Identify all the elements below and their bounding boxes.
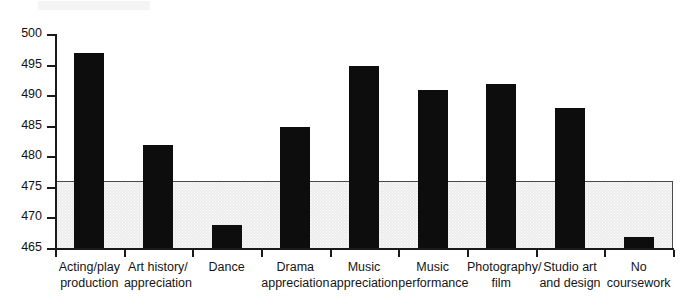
x-category-label: Studio artand design [536,259,605,291]
x-tick [673,250,675,257]
x-category-label: Musicappreciation [330,259,399,291]
x-category-label: Dramaappreciation [261,259,330,291]
y-tick-label: 495 [21,57,42,71]
x-category-label-line2: coursework [604,275,673,291]
x-category-label-line2: appreciation [124,275,193,291]
x-tick [330,250,332,257]
bar-chart: 465470475480485490495500 Acting/playprod… [0,0,683,308]
x-category-label-line1: Dance [209,260,245,274]
x-tick [604,250,606,257]
bar [212,225,242,249]
y-tick: 470 [47,217,55,219]
x-category-label-line1: Acting/play [59,260,120,274]
y-axis-line [55,34,57,250]
y-tick-label: 500 [21,26,42,40]
x-category-label-line2: appreciation [261,275,330,291]
y-tick: 495 [47,65,55,67]
bar [349,66,379,249]
x-category-label-line2: production [55,275,124,291]
y-tick: 500 [47,34,55,36]
x-category-label: Dance [192,259,261,275]
bar [74,53,104,249]
x-axis-line [55,248,674,250]
x-category-label-line2: film [467,275,536,291]
x-tick [536,250,538,257]
plot-area [55,35,673,249]
y-tick: 485 [47,126,55,128]
y-tick: 490 [47,95,55,97]
y-tick-label: 485 [21,118,42,132]
x-category-label-line1: Music [416,260,449,274]
x-category-label-line1: Photography/ [467,260,541,274]
y-tick: 480 [47,156,55,158]
y-tick-label: 480 [21,148,42,162]
x-axis-category-labels: Acting/playproductionArt history/appreci… [55,259,674,305]
x-category-label-line1: Studio art [543,260,597,274]
x-category-label-line2: and design [536,275,605,291]
x-category-label: Photography/film [467,259,536,291]
x-tick [398,250,400,257]
x-tick [467,250,469,257]
x-category-label-line1: Art history/ [128,260,188,274]
x-category-label: Art history/appreciation [124,259,193,291]
bar [486,84,516,249]
x-category-label-line2: performance [398,275,467,291]
x-category-label-line1: Music [348,260,381,274]
scan-artifact [38,1,150,10]
x-tick [261,250,263,257]
x-tick [55,250,57,257]
x-category-label: Musicperformance [398,259,467,291]
bar [555,108,585,249]
bar [143,145,173,249]
y-tick-label: 465 [21,240,42,254]
y-tick: 475 [47,187,55,189]
bar [418,90,448,249]
x-tick [192,250,194,257]
y-tick-label: 470 [21,209,42,223]
x-category-label-line2: appreciation [330,275,399,291]
y-tick-label: 490 [21,87,42,101]
y-tick-label: 475 [21,179,42,193]
x-category-label-line1: No [631,260,647,274]
bar [280,127,310,249]
x-category-label: Acting/playproduction [55,259,124,291]
x-category-label: Nocoursework [604,259,673,291]
x-tick [124,250,126,257]
x-category-label-line1: Drama [277,260,315,274]
y-tick: 465 [47,248,55,250]
